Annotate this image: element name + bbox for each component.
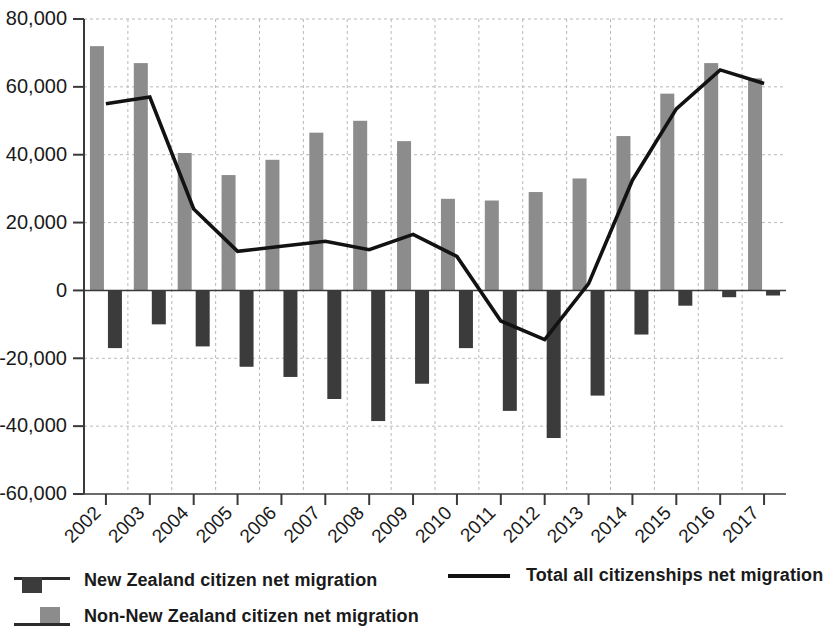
bar-non-nz-citizen bbox=[748, 78, 762, 290]
chart-canvas: 80,00060,00040,00020,0000-20,000-40,000-… bbox=[0, 0, 791, 555]
bar-nz-citizen bbox=[283, 290, 297, 377]
x-axis-tick-label: 2007 bbox=[279, 502, 324, 547]
legend-item-total: Total all citizenships net migration bbox=[448, 565, 823, 586]
bar-non-nz-citizen bbox=[573, 178, 587, 290]
bar-non-nz-citizen bbox=[309, 133, 323, 291]
chart-legend: New Zealand citizen net migration Non-Ne… bbox=[0, 555, 791, 630]
bar-non-nz-citizen bbox=[485, 201, 499, 291]
bars-non-nz-citizen bbox=[90, 46, 762, 290]
bar-nz-citizen bbox=[240, 290, 254, 366]
legend-label-total: Total all citizenships net migration bbox=[526, 565, 823, 586]
y-axis-tick-label: -40,000 bbox=[0, 414, 67, 436]
legend-item-non-nz-citizen: Non-New Zealand citizen net migration bbox=[14, 601, 419, 630]
x-axis-tick-label: 2003 bbox=[104, 502, 149, 547]
bar-nz-citizen bbox=[152, 290, 166, 324]
legend-swatch-line-icon bbox=[448, 574, 510, 578]
bar-nz-citizen bbox=[196, 290, 210, 346]
bar-non-nz-citizen bbox=[265, 160, 279, 291]
legend-label-non-nz-citizen: Non-New Zealand citizen net migration bbox=[84, 606, 419, 627]
bar-nz-citizen bbox=[678, 290, 692, 305]
bar-nz-citizen bbox=[108, 290, 122, 348]
bar-non-nz-citizen bbox=[353, 121, 367, 291]
x-axis-tick-label: 2006 bbox=[236, 502, 281, 547]
x-axis-tick-label: 2017 bbox=[718, 502, 763, 547]
x-axis-tick-label: 2011 bbox=[456, 502, 500, 546]
x-axis-tick-label: 2009 bbox=[367, 502, 412, 547]
y-axis-tick-label: 0 bbox=[56, 279, 67, 301]
bar-non-nz-citizen bbox=[441, 199, 455, 291]
bars-nz-citizen bbox=[108, 290, 780, 438]
bar-nz-citizen bbox=[371, 290, 385, 421]
legend-swatch-bar-dark-icon bbox=[14, 565, 70, 595]
x-axis-ticks: 2002200320042005200620072008200920102011… bbox=[60, 494, 764, 547]
x-axis-tick-label: 2012 bbox=[499, 502, 544, 547]
bar-nz-citizen bbox=[591, 290, 605, 395]
bar-nz-citizen bbox=[459, 290, 473, 348]
x-axis-tick-label: 2014 bbox=[587, 502, 632, 547]
bar-non-nz-citizen bbox=[90, 46, 104, 290]
x-axis-tick-label: 2013 bbox=[543, 502, 588, 547]
bar-non-nz-citizen bbox=[397, 141, 411, 290]
bar-nz-citizen bbox=[327, 290, 341, 399]
x-axis-tick-label: 2002 bbox=[60, 502, 105, 547]
bar-non-nz-citizen bbox=[529, 192, 543, 290]
bar-non-nz-citizen bbox=[704, 63, 718, 290]
y-axis-tick-label: 20,000 bbox=[6, 211, 67, 233]
y-axis-tick-label: 80,000 bbox=[6, 7, 67, 29]
x-axis-tick-label: 2010 bbox=[411, 502, 456, 547]
bar-nz-citizen bbox=[503, 290, 517, 410]
x-axis-tick-label: 2004 bbox=[148, 502, 193, 547]
legend-swatch-bar-grey-icon bbox=[14, 601, 70, 630]
x-axis-tick-label: 2015 bbox=[630, 502, 675, 547]
y-axis-ticks: 80,00060,00040,00020,0000-20,000-40,000-… bbox=[0, 7, 84, 504]
legend-item-nz-citizen: New Zealand citizen net migration bbox=[14, 565, 377, 595]
bar-nz-citizen bbox=[547, 290, 561, 438]
bar-nz-citizen bbox=[634, 290, 648, 334]
plot-area: 80,00060,00040,00020,0000-20,000-40,000-… bbox=[0, 0, 791, 555]
bar-nz-citizen bbox=[722, 290, 736, 297]
y-axis-tick-label: 40,000 bbox=[6, 143, 67, 165]
y-axis-tick-label: -60,000 bbox=[0, 482, 67, 504]
y-axis-tick-label: -20,000 bbox=[0, 347, 67, 369]
legend-label-nz-citizen: New Zealand citizen net migration bbox=[84, 570, 377, 591]
x-axis-tick-label: 2016 bbox=[674, 502, 719, 547]
x-axis-tick-label: 2008 bbox=[323, 502, 368, 547]
x-axis-tick-label: 2005 bbox=[192, 502, 237, 547]
bar-nz-citizen bbox=[415, 290, 429, 383]
bar-non-nz-citizen bbox=[222, 175, 236, 290]
y-axis-tick-label: 60,000 bbox=[6, 75, 67, 97]
